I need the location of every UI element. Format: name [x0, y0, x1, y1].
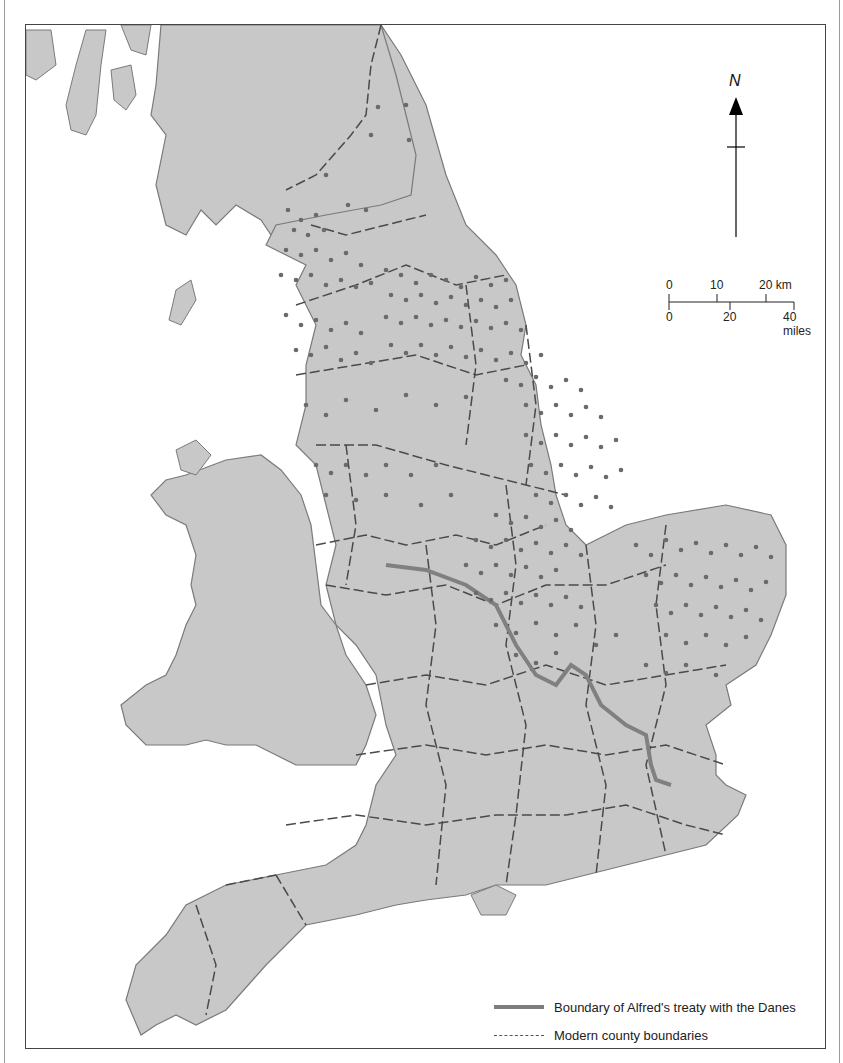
legend-label-county: Modern county boundaries [554, 1028, 708, 1043]
scale-km-20: 20 km [759, 278, 792, 292]
isle-of-man [169, 280, 196, 325]
scale-mi-0: 0 [666, 310, 673, 324]
scale-mi-40: 40 miles [783, 310, 826, 338]
map-of-england-and-wales [26, 25, 825, 1048]
scale-mi-20: 20 [723, 310, 736, 324]
island-west [26, 30, 56, 80]
island-kintyre [66, 30, 106, 135]
legend-item-treaty: Boundary of Alfred's treaty with the Dan… [494, 993, 796, 1021]
map-frame: N 0 10 20 km 0 20 40 miles Boundary of A… [25, 24, 826, 1049]
map-legend: Boundary of Alfred's treaty with the Dan… [494, 993, 796, 1049]
scale-km-10: 10 [710, 278, 723, 292]
legend-item-county: Modern county boundaries [494, 1021, 796, 1049]
island-small [121, 25, 151, 55]
island-arran [111, 65, 136, 110]
county-line-swatch [494, 1035, 544, 1036]
north-arrow-icon [721, 77, 751, 237]
scale-km-0: 0 [666, 278, 673, 292]
treaty-line-swatch [494, 1005, 544, 1009]
legend-label-treaty: Boundary of Alfred's treaty with the Dan… [554, 1000, 796, 1015]
scale-bar: 0 10 20 km 0 20 40 miles [646, 280, 826, 340]
